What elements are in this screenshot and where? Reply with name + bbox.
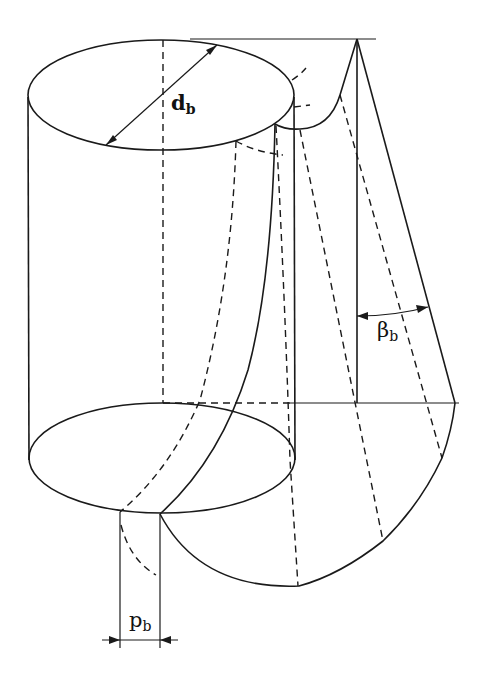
diameter-label-sub: b: [186, 101, 196, 117]
cylinder-left-side: [28, 97, 29, 460]
dashed-line-b: [300, 130, 383, 541]
helix-angle-label-sub: b: [389, 328, 398, 344]
apex-slanted-line: [357, 39, 455, 403]
pitch-arrow-right: [160, 636, 171, 644]
helix-angle-label-main: β: [377, 318, 389, 342]
beta-arrow-right: [416, 305, 428, 313]
helix-curve-dashed: [120, 141, 236, 512]
arc-dash-1: [292, 68, 306, 80]
pitch-label-sub: b: [142, 618, 151, 634]
diameter-label: db: [171, 92, 195, 116]
cylinder-right-side: [294, 97, 295, 460]
bottom-ellipse: [29, 403, 295, 513]
helix-angle-label: βb: [377, 320, 398, 343]
helix-curve-solid: [160, 124, 275, 514]
arc-dash-3: [236, 141, 283, 155]
cylinder-helix-diagram: [0, 0, 477, 681]
beta-arrow-left: [357, 312, 368, 320]
arc-dash-2: [294, 105, 310, 107]
pitch-dashed-arc: [121, 525, 156, 575]
pitch-arrow-left: [109, 636, 120, 644]
involute-bottom-curve: [160, 403, 455, 586]
pitch-label-main: p: [129, 608, 142, 632]
diameter-dimension-line: [106, 45, 217, 145]
involute-top-curve: [275, 39, 357, 129]
pitch-label: pb: [129, 610, 151, 633]
diameter-label-main: d: [171, 90, 186, 115]
